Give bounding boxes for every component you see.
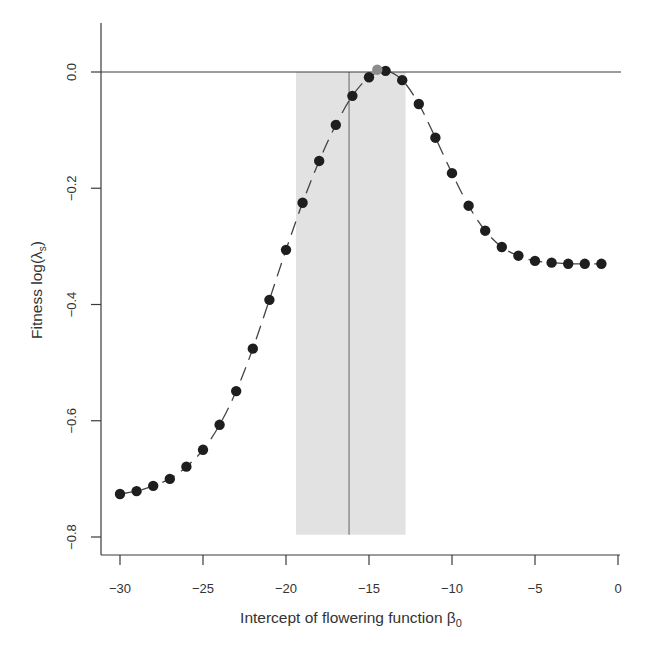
x-tick-label: −30: [109, 581, 131, 596]
y-tick-label: −0.8: [64, 524, 79, 550]
data-point: [530, 256, 540, 266]
data-point: [248, 343, 258, 353]
data-point: [546, 257, 556, 267]
fitness-chart: −30−25−20−15−10−50 0.0−0.2−0.4−0.6−0.8 I…: [0, 0, 647, 652]
data-point: [463, 200, 473, 210]
data-point: [513, 250, 523, 260]
data-point: [148, 481, 158, 491]
y-tick-label: 0.0: [64, 63, 79, 81]
x-axis-title: Intercept of flowering function β0: [240, 609, 462, 629]
data-point: [165, 474, 175, 484]
data-point: [115, 489, 125, 499]
data-point: [198, 445, 208, 455]
y-tick-label: −0.4: [64, 292, 79, 318]
data-point: [331, 120, 341, 130]
data-point: [596, 259, 606, 269]
data-point: [264, 295, 274, 305]
data-point: [214, 420, 224, 430]
data-point: [580, 259, 590, 269]
data-point: [414, 99, 424, 109]
y-tick-label: −0.2: [64, 175, 79, 201]
data-point: [231, 386, 241, 396]
data-point: [297, 198, 307, 208]
data-point: [497, 242, 507, 252]
x-tick-label: −5: [528, 581, 543, 596]
data-point: [281, 245, 291, 255]
data-point: [131, 486, 141, 496]
confidence-band: [296, 72, 406, 535]
data-point: [430, 132, 440, 142]
data-point: [563, 259, 573, 269]
x-ticks: −30−25−20−15−10−50: [109, 555, 622, 596]
data-point: [364, 72, 374, 82]
data-point: [480, 225, 490, 235]
optimum-point: [372, 64, 382, 74]
data-point: [447, 168, 457, 178]
data-point: [347, 91, 357, 101]
y-ticks: 0.0−0.2−0.4−0.6−0.8: [64, 63, 101, 550]
data-point: [181, 461, 191, 471]
x-tick-label: 0: [614, 581, 621, 596]
x-tick-label: −15: [358, 581, 380, 596]
data-point: [314, 156, 324, 166]
x-tick-label: −20: [275, 581, 297, 596]
data-point: [397, 75, 407, 85]
y-tick-label: −0.6: [64, 408, 79, 434]
x-tick-label: −25: [192, 581, 214, 596]
y-axis-title: Fitness log(λs): [28, 241, 48, 339]
shaded-interval-layer: [296, 72, 406, 535]
x-tick-label: −10: [441, 581, 463, 596]
